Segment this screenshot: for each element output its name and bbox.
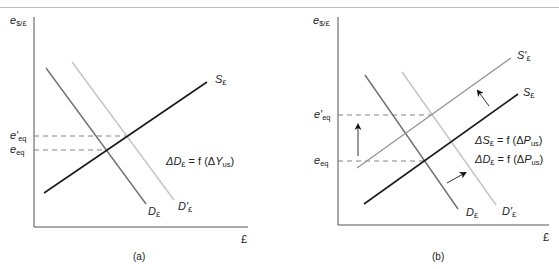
annotation-lhs: ΔD bbox=[475, 153, 490, 165]
label-sub: £ bbox=[530, 91, 534, 100]
label-sub: eq bbox=[320, 159, 328, 168]
label-sub: $/£ bbox=[319, 19, 329, 28]
panel-b-x-axis-label: £ bbox=[543, 232, 549, 243]
label-sub: £ bbox=[156, 210, 160, 219]
panel-a-demand-shift-annotation: ΔD£ = f (ΔYus) bbox=[166, 156, 234, 169]
panel-a-supply-label: S£ bbox=[215, 74, 227, 87]
annotation-var-sub: us bbox=[531, 139, 539, 148]
panel-b-supply-shift-arrow bbox=[478, 91, 489, 106]
label-base: D bbox=[466, 206, 474, 218]
panel-b-supply-curve bbox=[364, 94, 518, 204]
panel-a-caption: (a) bbox=[133, 251, 145, 262]
label-sub: £ bbox=[222, 78, 226, 87]
panel-b-supply-shift-annotation: ΔS£ = f (ΔPus) bbox=[475, 135, 543, 148]
panel-a-y-axis-label: e$/£ bbox=[10, 15, 27, 28]
panel-a-demand-shifted-label: D′£ bbox=[178, 201, 192, 214]
label-base: D′ bbox=[502, 205, 512, 217]
label-sub: $/£ bbox=[16, 19, 26, 28]
annotation-close: ) bbox=[539, 153, 543, 165]
panel-b-demand-label: D£ bbox=[466, 207, 478, 220]
label-sub: £ bbox=[188, 205, 192, 214]
label-sub: £ bbox=[474, 211, 478, 220]
annotation-var: P bbox=[524, 153, 531, 165]
label-base: e′ bbox=[314, 108, 322, 120]
panel-b-supply-shifted-curve bbox=[357, 58, 511, 168]
annotation-lhs: ΔS bbox=[475, 134, 490, 146]
label-base: D bbox=[148, 205, 156, 217]
panel-a-eeq-prime-label: e′eq bbox=[10, 130, 27, 143]
panel-b-demand-shift-annotation: ΔD£ = f (ΔPus) bbox=[475, 154, 543, 167]
annotation-var: P bbox=[524, 134, 531, 146]
panel-b-demand-curve bbox=[365, 75, 458, 209]
annotation-eq: = f (Δ bbox=[186, 155, 216, 167]
label-sub: eq bbox=[16, 148, 24, 157]
annotation-eq: = f (Δ bbox=[495, 153, 525, 165]
panel-b-eeq-label: eeq bbox=[314, 155, 328, 168]
label-sub: eq bbox=[18, 134, 26, 143]
panel-b-eeq-prime-label: e′eq bbox=[314, 109, 331, 122]
panel-b-demand-shift-arrow bbox=[447, 173, 465, 183]
annotation-lhs: ΔD bbox=[166, 155, 181, 167]
annotation-close: ) bbox=[230, 155, 234, 167]
annotation-close: ) bbox=[539, 134, 543, 146]
panel-b-supply-shifted-label: S′£ bbox=[517, 50, 531, 63]
label-sub: eq bbox=[322, 113, 330, 122]
label-sub: £ bbox=[526, 54, 530, 63]
panel-a-eeq-label: eeq bbox=[10, 144, 24, 157]
panel-b-caption: (b) bbox=[432, 251, 444, 262]
annotation-var: Y bbox=[215, 155, 222, 167]
annotation-eq: = f (Δ bbox=[494, 134, 524, 146]
label-base: D′ bbox=[178, 200, 188, 212]
label-base: e′ bbox=[10, 129, 18, 141]
panel-a bbox=[34, 17, 248, 227]
panel-a-demand-label: D£ bbox=[148, 206, 160, 219]
panel-a-x-axis-label: £ bbox=[241, 234, 247, 245]
label-sub: £ bbox=[512, 210, 516, 219]
panel-a-demand-shifted-curve bbox=[72, 62, 174, 200]
panel-b-supply-label: S£ bbox=[523, 87, 535, 100]
label-base: S′ bbox=[517, 49, 526, 61]
panel-b-demand-shifted-label: D′£ bbox=[502, 206, 516, 219]
panel-b-y-axis-label: e$/£ bbox=[313, 15, 330, 28]
